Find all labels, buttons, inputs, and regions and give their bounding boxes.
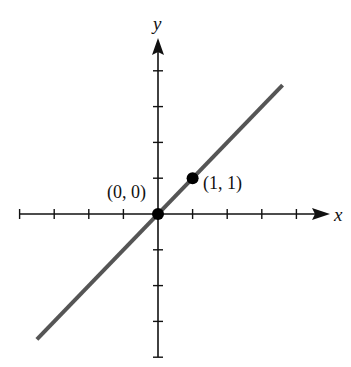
y-axis-label: y: [151, 13, 162, 34]
x-axis-label: x: [333, 204, 343, 225]
data-point: [152, 208, 164, 220]
data-point: [187, 172, 199, 184]
coordinate-plane: x y (0, 0) (1, 1): [0, 0, 351, 367]
point-label: (1, 1): [203, 173, 242, 194]
origin-label: (0, 0): [107, 182, 146, 203]
